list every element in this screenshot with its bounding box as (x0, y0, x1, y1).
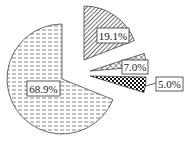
leader-line-5-0 (146, 83, 156, 86)
label-5-0: 5.0% (156, 77, 183, 91)
label-19-1-text: 19.1% (99, 30, 127, 42)
pie-chart: 19.1% 7.0% 5.0% 68.9% (0, 0, 188, 141)
label-5-0-text: 5.0% (158, 78, 181, 90)
label-7-0: 7.0% (122, 60, 148, 74)
label-7-0-text: 7.0% (124, 61, 147, 73)
label-19-1: 19.1% (97, 28, 129, 43)
label-68-9: 68.9% (27, 81, 60, 96)
slice-5-0 (90, 76, 146, 93)
label-68-9-text: 68.9% (29, 83, 57, 95)
